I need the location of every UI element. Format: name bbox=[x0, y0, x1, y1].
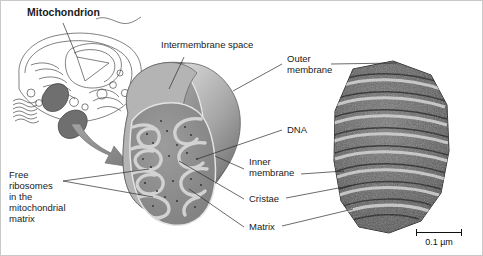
label-outer-membrane: Outer membrane bbox=[287, 53, 332, 75]
mitochondrion-figure: Mitochondrion Intermembrane space Outer … bbox=[0, 0, 483, 256]
label-matrix: Matrix bbox=[249, 221, 275, 232]
label-mitochondrion: Mitochondrion bbox=[27, 7, 100, 18]
label-free-ribosomes: Free ribosomes in the mitochondrial matr… bbox=[9, 169, 66, 224]
cell-diagram-art bbox=[13, 17, 141, 123]
label-cristae: Cristae bbox=[249, 193, 279, 204]
tem-micrograph bbox=[331, 56, 456, 238]
leader-matrix-right bbox=[282, 209, 353, 226]
leader-mitochondrion bbox=[63, 23, 77, 57]
mitochondrion-illustration bbox=[123, 62, 240, 225]
zoom-arrow bbox=[71, 124, 131, 167]
label-intermembrane-space: Intermembrane space bbox=[161, 39, 253, 50]
scale-bar-label: 0.1 µm bbox=[416, 237, 462, 247]
scale-bar-line bbox=[416, 229, 462, 236]
label-dna: DNA bbox=[287, 124, 307, 135]
scale-bar: 0.1 µm bbox=[416, 229, 462, 247]
leader-outer-membrane-left bbox=[233, 64, 282, 91]
label-inner-membrane: Inner membrane bbox=[249, 156, 294, 178]
